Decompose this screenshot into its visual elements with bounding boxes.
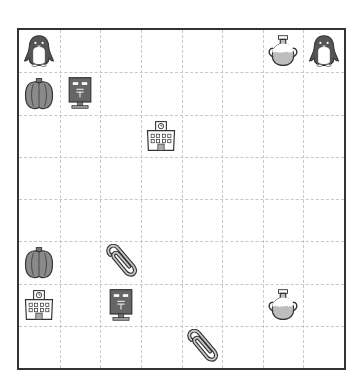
pumpkin-icon bbox=[21, 75, 57, 111]
paperclip-icon bbox=[184, 329, 220, 365]
board-tile-pumpkin[interactable] bbox=[19, 72, 60, 114]
school-icon bbox=[143, 118, 179, 154]
penguin-icon bbox=[21, 33, 57, 69]
board-tile-school[interactable] bbox=[141, 115, 182, 157]
board-tile-paperclip[interactable] bbox=[182, 326, 223, 368]
board-tile-vase[interactable] bbox=[263, 284, 304, 326]
vase-icon bbox=[265, 287, 301, 323]
grid-line-horizontal bbox=[19, 199, 344, 200]
grid-line-horizontal bbox=[19, 241, 344, 242]
pumpkin-icon bbox=[21, 244, 57, 280]
game-board bbox=[17, 28, 346, 370]
penguin-icon bbox=[306, 33, 342, 69]
paperclip-icon bbox=[103, 244, 139, 280]
vase-icon bbox=[265, 33, 301, 69]
school-icon bbox=[21, 287, 57, 323]
board-tile-penguin[interactable] bbox=[19, 30, 60, 72]
board-tile-mailbox[interactable] bbox=[60, 72, 101, 114]
board-tile-school[interactable] bbox=[19, 284, 60, 326]
mailbox-icon bbox=[103, 287, 139, 323]
board-tile-penguin[interactable] bbox=[303, 30, 344, 72]
mailbox-icon bbox=[62, 75, 98, 111]
grid-line-horizontal bbox=[19, 115, 344, 116]
board-tile-mailbox[interactable] bbox=[100, 284, 141, 326]
board-tile-pumpkin[interactable] bbox=[19, 241, 60, 283]
board-tile-vase[interactable] bbox=[263, 30, 304, 72]
board-tile-paperclip[interactable] bbox=[100, 241, 141, 283]
grid-line-horizontal bbox=[19, 157, 344, 158]
